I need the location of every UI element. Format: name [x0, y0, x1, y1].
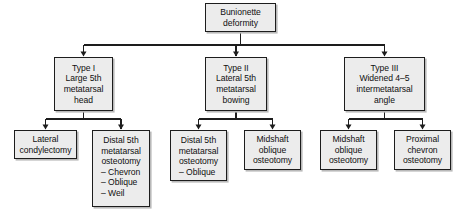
midshaft-oblique-osteotomy-type-ii: Midshaftobliqueosteotomy [244, 130, 301, 170]
node-text-line: Large 5th [66, 73, 102, 84]
node-text-line: Midshaft [332, 134, 364, 145]
node-text-line: osteotomy [179, 156, 218, 167]
node-text-line: Distal 5th [103, 135, 138, 146]
distal-5th-metatarsal-osteotomy-oblique: Distal 5thmetatarsalosteotomy– Oblique [170, 130, 227, 181]
node-text-line: metatarsal [64, 84, 104, 95]
node-bullet-item: – Oblique [173, 167, 215, 178]
lateral-condylectomy: Lateralcondylectomy [14, 130, 77, 159]
node-text-line: metatarsal [101, 146, 141, 157]
node-text-line: oblique [259, 145, 286, 156]
node-text-line: Lateral [33, 134, 59, 145]
node-text-line: angle [374, 95, 395, 106]
node-text-line: Lateral 5th [216, 73, 256, 84]
flowchart-diagram: BunionettedeformityType ILarge 5thmetata… [0, 0, 467, 214]
node-bullet-item: – Chevron [95, 167, 140, 178]
node-text-line: chevron [407, 145, 437, 156]
node-text-line: Type II [223, 63, 248, 74]
node-text-line: metatarsal [179, 146, 219, 157]
type-ii: Type IILateral 5thmetatarsalbowing [205, 57, 267, 111]
node-text-line: Type III [371, 63, 399, 74]
node-text-line: Distal 5th [181, 135, 216, 146]
node-text-line: osteotomy [403, 155, 442, 166]
node-text-line: osteotomy [329, 155, 368, 166]
midshaft-oblique-osteotomy-type-iii: Midshaftobliqueosteotomy [320, 130, 377, 170]
node-text-line: metatarsal [216, 84, 256, 95]
node-text-line: osteotomy [253, 155, 292, 166]
distal-5th-metatarsal-osteotomy-variants: Distal 5thmetatarsalosteotomy– Chevron– … [92, 130, 150, 207]
type-i: Type ILarge 5thmetatarsalhead [54, 57, 113, 111]
bunionette-deformity: Bunionettedeformity [205, 3, 276, 32]
node-text-line: oblique [335, 145, 362, 156]
node-text-line: Type I [72, 63, 95, 74]
proximal-chevron-osteotomy: Proximalchevronosteotomy [394, 130, 451, 170]
node-bullet-item: – Oblique [95, 177, 137, 188]
node-text-line: intermetatarsal [356, 84, 412, 95]
node-text-line: condylectomy [20, 145, 72, 156]
node-bullet-item: – Weil [95, 188, 124, 199]
node-text-line: bowing [223, 95, 250, 106]
type-iii: Type IIIWidened 4–5intermetatarsalangle [344, 57, 425, 111]
node-text-line: deformity [223, 18, 258, 29]
node-text-line: Widened 4–5 [359, 73, 409, 84]
node-text-line: Midshaft [256, 134, 288, 145]
node-text-line: Proximal [406, 134, 439, 145]
node-text-line: Bunionette [220, 7, 261, 18]
node-text-line: head [74, 95, 93, 106]
node-text-line: osteotomy [101, 156, 140, 167]
